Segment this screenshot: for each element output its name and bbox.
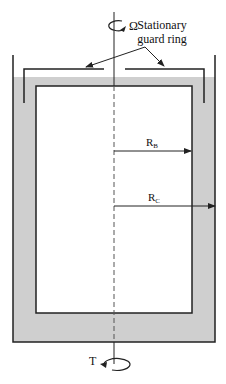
guard-ring-leader-left — [86, 47, 145, 67]
guard-ring-label-line2: guard ring — [137, 32, 187, 46]
torque-rotation-icon — [100, 358, 130, 370]
torque-label: T — [89, 354, 97, 368]
guard-ring-label-line1: Stationary — [137, 18, 186, 32]
guard-ring-leader-right — [145, 47, 164, 66]
viscometer-diagram: Ω Stationary guard ring RB RC T — [0, 0, 226, 384]
omega-rotation-icon — [109, 21, 126, 32]
